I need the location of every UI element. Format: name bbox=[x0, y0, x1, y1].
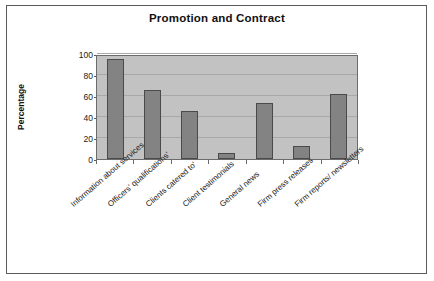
x-axis-tick-mark bbox=[358, 160, 359, 164]
bar[interactable] bbox=[181, 111, 198, 159]
bar[interactable] bbox=[293, 146, 310, 159]
bar[interactable] bbox=[256, 103, 273, 159]
y-axis-title-text: Percentage bbox=[16, 62, 26, 152]
y-axis-tick-labels: 020406080100 bbox=[60, 55, 93, 160]
y-axis-tick-label: 100 bbox=[79, 50, 93, 60]
y-axis-tick-label: 0 bbox=[88, 155, 93, 165]
x-axis-tick-mark bbox=[96, 160, 97, 164]
x-axis-tick-marks bbox=[96, 160, 358, 164]
bar[interactable] bbox=[218, 153, 235, 159]
x-axis-tick-mark bbox=[246, 160, 247, 164]
bar[interactable] bbox=[330, 94, 347, 159]
x-axis-tick-mark bbox=[321, 160, 322, 164]
y-axis-tick-label: 60 bbox=[84, 92, 93, 102]
bar-slot bbox=[246, 56, 283, 159]
y-axis-tick-label: 20 bbox=[84, 134, 93, 144]
x-axis-tick-mark bbox=[208, 160, 209, 164]
bar[interactable] bbox=[107, 59, 124, 159]
x-axis-tick-mark bbox=[171, 160, 172, 164]
bar-slot bbox=[171, 56, 208, 159]
y-axis-tick-label: 80 bbox=[84, 71, 93, 81]
plot-area bbox=[96, 55, 358, 160]
bar-slot bbox=[320, 56, 357, 159]
bar-series bbox=[97, 56, 357, 159]
bar-slot bbox=[208, 56, 245, 159]
y-axis-title: Percentage bbox=[16, 0, 26, 62]
bar-slot bbox=[134, 56, 171, 159]
chart-figure: Promotion and Contract Percentage 020406… bbox=[0, 0, 434, 281]
y-axis-tick-label: 40 bbox=[84, 113, 93, 123]
x-axis-tick-mark bbox=[283, 160, 284, 164]
bar-slot bbox=[283, 56, 320, 159]
bar-slot bbox=[97, 56, 134, 159]
gridline bbox=[97, 53, 357, 54]
chart-title: Promotion and Contract bbox=[0, 12, 434, 24]
bar[interactable] bbox=[144, 90, 161, 159]
x-axis-tick-mark bbox=[133, 160, 134, 164]
